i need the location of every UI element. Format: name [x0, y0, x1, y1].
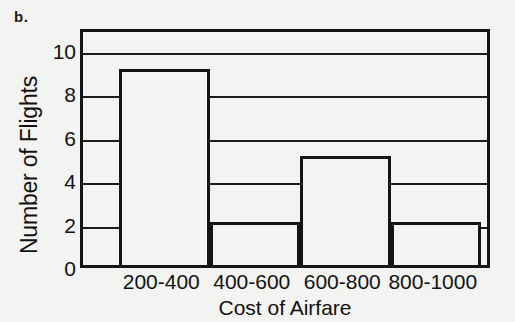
- histogram-figure: b. Number of Flights 0246810 200-400400-…: [0, 0, 515, 322]
- x-axis-tick-600-800: 600-800: [304, 270, 381, 294]
- bar-200-400: [119, 69, 210, 265]
- x-axis-tick-labels: 200-400400-600600-800800-1000: [80, 270, 490, 296]
- y-axis-tick-labels: 0246810: [36, 29, 76, 268]
- x-axis-tick-800-1000: 800-1000: [388, 270, 477, 294]
- gridline-10: [83, 53, 487, 55]
- panel-label: b.: [14, 8, 28, 25]
- x-axis-tick-200-400: 200-400: [123, 270, 200, 294]
- y-axis-tick-2: 2: [64, 214, 76, 235]
- bar-600-800: [300, 156, 391, 265]
- x-axis-label: Cost of Airfare: [80, 296, 490, 320]
- y-axis-tick-6: 6: [64, 127, 76, 148]
- y-axis-tick-4: 4: [64, 171, 76, 192]
- y-axis-tick-10: 10: [53, 40, 76, 61]
- plot-inner: [83, 32, 487, 265]
- y-axis-tick-8: 8: [64, 84, 76, 105]
- y-axis-tick-0: 0: [64, 258, 76, 279]
- bar-800-1000: [391, 222, 482, 265]
- bar-400-600: [210, 222, 301, 265]
- plot-area: [80, 29, 490, 268]
- x-axis-tick-400-600: 400-600: [213, 270, 290, 294]
